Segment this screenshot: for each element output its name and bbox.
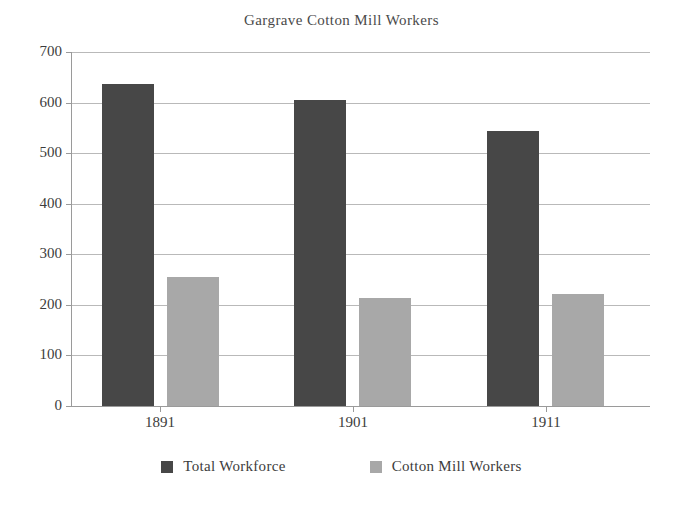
x-tick-mark bbox=[546, 407, 547, 412]
legend-item-cotton-mill-workers[interactable]: Cotton Mill Workers bbox=[370, 458, 522, 475]
chart-title: Gargrave Cotton Mill Workers bbox=[0, 12, 683, 29]
y-tick-label: 200 bbox=[16, 296, 62, 313]
y-tick-label: 0 bbox=[16, 397, 62, 414]
y-tick-mark bbox=[66, 355, 72, 356]
x-axis-label-1911: 1911 bbox=[486, 414, 606, 431]
bar-chart: Gargrave Cotton Mill Workers 70060050040… bbox=[0, 0, 683, 506]
gridline bbox=[72, 153, 650, 154]
x-tick-mark bbox=[353, 407, 354, 412]
y-tick-label: 400 bbox=[16, 195, 62, 212]
legend-swatch-icon bbox=[370, 461, 382, 473]
bar-cotton-mill-workers-1891 bbox=[167, 277, 219, 406]
legend-item-total-workforce[interactable]: Total Workforce bbox=[161, 458, 285, 475]
bar-cotton-mill-workers-1901 bbox=[359, 298, 411, 406]
y-tick-mark bbox=[66, 52, 72, 53]
x-axis-label-1891: 1891 bbox=[100, 414, 220, 431]
y-tick-mark bbox=[66, 254, 72, 255]
x-tick-mark bbox=[160, 407, 161, 412]
legend-label: Total Workforce bbox=[183, 458, 285, 475]
y-tick-label: 100 bbox=[16, 346, 62, 363]
legend-label: Cotton Mill Workers bbox=[392, 458, 522, 475]
y-tick-mark bbox=[66, 153, 72, 154]
gridline bbox=[72, 103, 650, 104]
y-tick-label: 500 bbox=[16, 144, 62, 161]
y-tick-mark bbox=[66, 305, 72, 306]
gridline bbox=[72, 204, 650, 205]
y-tick-label: 300 bbox=[16, 245, 62, 262]
x-axis-label-1901: 1901 bbox=[293, 414, 413, 431]
bar-total-workforce-1891 bbox=[102, 84, 154, 406]
bar-cotton-mill-workers-1911 bbox=[552, 294, 604, 406]
y-tick-mark bbox=[66, 103, 72, 104]
legend-swatch-icon bbox=[161, 461, 173, 473]
y-tick-label: 700 bbox=[16, 43, 62, 60]
y-axis-line bbox=[71, 52, 72, 407]
chart-legend: Total WorkforceCotton Mill Workers bbox=[0, 458, 683, 475]
y-tick-mark bbox=[66, 406, 72, 407]
bar-total-workforce-1901 bbox=[294, 100, 346, 406]
gridline bbox=[72, 254, 650, 255]
gridline bbox=[72, 52, 650, 53]
y-tick-label: 600 bbox=[16, 94, 62, 111]
gridline bbox=[72, 406, 650, 407]
y-tick-mark bbox=[66, 204, 72, 205]
bar-total-workforce-1911 bbox=[487, 131, 539, 406]
